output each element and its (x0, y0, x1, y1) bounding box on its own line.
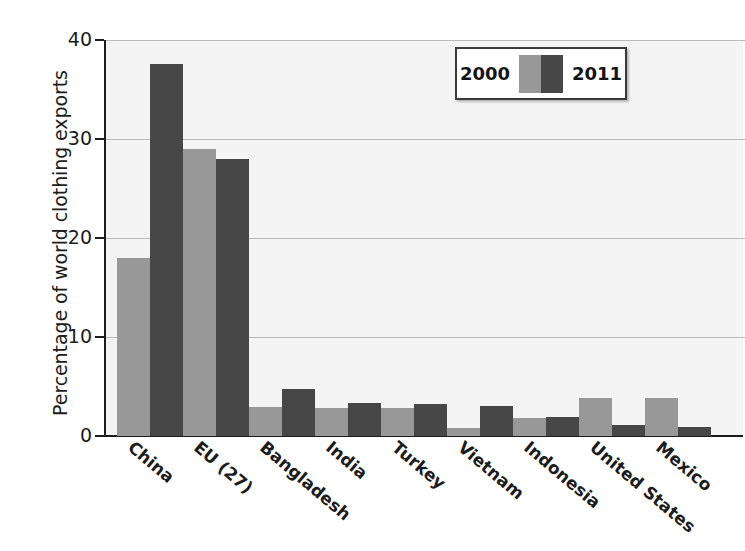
legend-swatch-2000 (519, 55, 541, 93)
bar (348, 403, 381, 436)
legend-label-2011: 2011 (563, 63, 631, 84)
bar (216, 159, 249, 436)
y-axis-tick-mark (95, 435, 104, 437)
bar (612, 425, 645, 436)
x-axis-label: India (322, 437, 372, 483)
bar-group (381, 40, 447, 436)
bar (117, 258, 150, 436)
legend-swatches (519, 55, 563, 93)
bar (150, 64, 183, 436)
y-axis-tick-mark (95, 138, 104, 140)
y-axis-tick-label: 0 (44, 426, 92, 445)
x-axis-label: EU (27) (190, 437, 257, 498)
y-axis-tick-label: 20 (44, 228, 92, 247)
x-axis-category-labels: ChinaEU (27)BangladeshIndiaTurkeyVietnam… (104, 437, 743, 551)
bar (447, 428, 480, 436)
x-axis-label: Turkey (388, 437, 450, 493)
y-axis-tick-label: 30 (44, 129, 92, 148)
bar (183, 149, 216, 436)
bar-group (183, 40, 249, 436)
x-axis-label: Vietnam (454, 437, 528, 504)
bar (678, 427, 711, 436)
bar (381, 408, 414, 436)
legend: 2000 2011 (455, 47, 627, 100)
bar (546, 417, 579, 436)
y-axis-tick-mark (95, 336, 104, 338)
bar (414, 404, 447, 436)
bar (513, 418, 546, 436)
bar (579, 398, 612, 436)
bars-layer (104, 40, 743, 436)
bar (315, 408, 348, 436)
y-axis-tick-mark (95, 237, 104, 239)
x-axis-label: China (124, 437, 178, 487)
bar-group (645, 40, 711, 436)
y-axis-tick-label: 40 (44, 30, 92, 49)
y-axis-tick-mark (95, 39, 104, 41)
legend-swatch-2011 (541, 55, 563, 93)
bar-group (315, 40, 381, 436)
x-axis-label: Mexico (652, 437, 716, 495)
bar (480, 406, 513, 436)
legend-label-2000: 2000 (451, 63, 519, 84)
bar (282, 389, 315, 436)
bar-group (249, 40, 315, 436)
bar-group (117, 40, 183, 436)
bar (645, 398, 678, 436)
bar (249, 407, 282, 436)
y-axis-tick-label: 10 (44, 327, 92, 346)
